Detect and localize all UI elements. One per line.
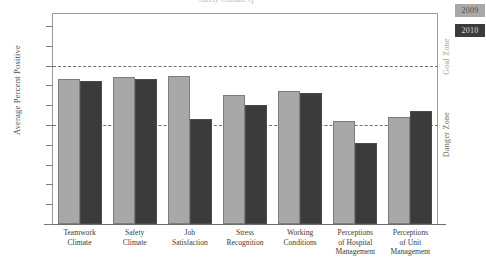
goal-zone-label: Goal Zone: [442, 27, 451, 87]
y-axis-title: Average Percent Positive: [12, 15, 22, 165]
bar-2010[interactable]: [190, 119, 212, 224]
legend-label-2009: 2009: [462, 6, 479, 15]
bar-2010[interactable]: [135, 79, 157, 224]
legend-item-2009[interactable]: 2009: [455, 4, 485, 17]
chart-title-cropped: Safety Climate Q: [128, 0, 324, 7]
bar-2009[interactable]: [333, 121, 355, 224]
bar-2010[interactable]: [300, 93, 322, 224]
bar-group: [58, 79, 102, 224]
chart-title-text: Safety Climate Q: [128, 0, 324, 4]
bar-2010[interactable]: [245, 105, 267, 224]
x-axis-line: [44, 224, 446, 225]
bar-chart: Safety Climate Q Average Percent Positiv…: [0, 0, 486, 260]
bar-2009[interactable]: [223, 95, 245, 224]
bar-2010[interactable]: [410, 111, 432, 224]
danger-zone-label: Danger Zone: [442, 101, 451, 169]
bar-2009[interactable]: [168, 76, 190, 225]
bar-group: [223, 95, 267, 224]
bars-layer: [52, 13, 438, 224]
bar-group: [168, 76, 212, 225]
bar-2010[interactable]: [355, 143, 377, 224]
bar-group: [388, 111, 432, 224]
x-axis-label: Perceptionsof UnitManagement: [373, 228, 447, 257]
legend-label-2010: 2010: [462, 26, 479, 35]
legend-item-2010[interactable]: 2010: [455, 24, 485, 37]
bar-group: [333, 121, 377, 224]
x-axis-labels: TeamworkClimateSafetyClimateJobSatisfact…: [52, 228, 438, 260]
chart-legend: 2009 2010: [455, 4, 485, 44]
bar-2010[interactable]: [80, 81, 102, 224]
y-tick-mark: [46, 224, 53, 225]
bar-group: [278, 91, 322, 224]
bar-group: [113, 77, 157, 224]
bar-2009[interactable]: [113, 77, 135, 224]
bar-2009[interactable]: [58, 79, 80, 224]
bar-2009[interactable]: [388, 117, 410, 224]
bar-2009[interactable]: [278, 91, 300, 224]
